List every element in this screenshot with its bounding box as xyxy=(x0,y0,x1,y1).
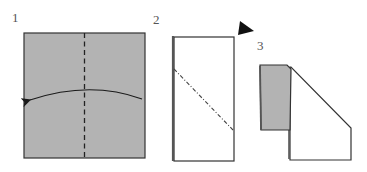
folded-rectangle xyxy=(174,37,234,161)
white-pentagon xyxy=(290,67,351,160)
step-3: 3 xyxy=(257,38,351,160)
step-1-number: 1 xyxy=(12,10,19,25)
step-2: 2 xyxy=(153,12,254,161)
step-3-number: 3 xyxy=(257,38,264,53)
step-2-number: 2 xyxy=(153,12,160,27)
step-1: 1 xyxy=(12,10,145,158)
origami-diagram: 1 2 3 xyxy=(0,0,367,172)
colored-flap xyxy=(260,65,291,130)
turn-over-triangle-icon xyxy=(238,21,254,35)
colored-flap-edge xyxy=(260,66,261,130)
